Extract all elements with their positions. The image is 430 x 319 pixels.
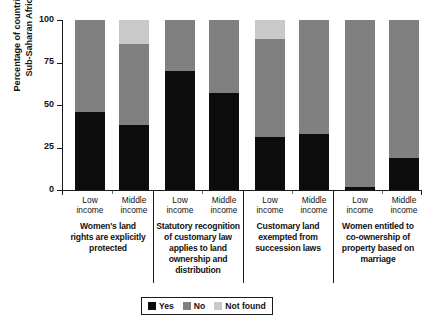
legend-swatch-no-icon (183, 302, 191, 310)
group-label-4: Women entitled to co-ownership of proper… (331, 221, 425, 265)
x-tick-group1-mid (112, 191, 113, 194)
group-label-line-3: succession laws (241, 243, 335, 254)
bar-segment-yes (255, 137, 285, 190)
sub-label-line-1: Middle (112, 195, 156, 205)
legend-label-no: No (194, 301, 205, 311)
group-label-line-3: protected (61, 243, 155, 254)
legend-label-yes: Yes (159, 301, 174, 311)
sub-label-line-1: Middle (292, 195, 336, 205)
group-label-3: Customary land exempted from succession … (241, 221, 335, 254)
group-label-line-2: co-ownership of (331, 232, 425, 243)
group-label-1: Women's land rights are explicitly prote… (61, 221, 155, 254)
bar-segment-yes (75, 112, 105, 190)
bar-segment-yes (209, 93, 239, 190)
bar-segment-not-found (119, 20, 149, 44)
y-tick-label-0: 0 (49, 184, 54, 194)
bar-segment-yes (299, 134, 329, 190)
sub-label-line-2: income (338, 205, 382, 215)
legend-item-yes[interactable]: Yes (148, 301, 179, 311)
plot-area: 0 25 50 75 100 (62, 20, 422, 190)
sub-label-line-2: income (202, 205, 246, 215)
y-tick-label-25: 25 (44, 141, 54, 151)
sub-label-line-2: income (248, 205, 292, 215)
bar-group2-low[interactable] (165, 20, 195, 190)
group-label-line-3: property based on (331, 243, 425, 254)
bar-group2-middle[interactable] (209, 20, 239, 190)
group-label-line-2: exempted from (241, 232, 335, 243)
bar-segment-no (299, 20, 329, 134)
bar-segment-yes (345, 187, 375, 190)
bar-group1-middle[interactable] (119, 20, 149, 190)
legend-label-not-found: Not found (225, 301, 266, 311)
group-label-line-4: ownership and (151, 254, 245, 265)
sub-label-line-2: income (382, 205, 426, 215)
y-axis-title: Percentage of countries in Sub-Saharan A… (7, 0, 41, 123)
legend-swatch-yes-icon (148, 302, 156, 310)
bar-group4-middle[interactable] (389, 20, 419, 190)
bar-group1-low[interactable] (75, 20, 105, 190)
bar-segment-no (119, 44, 149, 126)
y-axis-title-line-2: Sub-Saharan Africa (24, 0, 36, 77)
sub-label-group1-low: Low income (68, 195, 112, 216)
sub-label-line-1: Middle (202, 195, 246, 205)
category-labels: Low income Middle income Low income Midd… (62, 195, 422, 287)
sub-label-group3-low: Low income (248, 195, 292, 216)
sub-label-group4-middle: Middle income (382, 195, 426, 216)
group-label-line-2: rights are explicitly (61, 232, 155, 243)
bar-segment-no (165, 20, 195, 71)
sub-label-line-2: income (158, 205, 202, 215)
sub-label-line-1: Low (248, 195, 292, 205)
group-label-line-1: Customary land (241, 221, 335, 232)
x-tick-group3-mid (292, 191, 293, 194)
sub-label-line-1: Low (338, 195, 382, 205)
sub-label-line-1: Low (158, 195, 202, 205)
sub-label-line-2: income (292, 205, 336, 215)
group-label-2: Statutory recognition of customary law a… (151, 221, 245, 276)
bar-group3-low[interactable] (255, 20, 285, 190)
sub-label-group2-middle: Middle income (202, 195, 246, 216)
sub-label-line-2: income (68, 205, 112, 215)
bar-segment-yes (389, 158, 419, 190)
x-tick-group4-mid (382, 191, 383, 194)
bar-group4-low[interactable] (345, 20, 375, 190)
stacked-bar-chart: Percentage of countries in Sub-Saharan A… (0, 0, 430, 319)
bar-segment-no (209, 20, 239, 93)
bar-segment-yes (119, 125, 149, 190)
bar-segment-no (345, 20, 375, 187)
bar-segment-not-found (255, 20, 285, 39)
y-tick-label-50: 50 (44, 99, 54, 109)
group-label-line-5: distribution (151, 265, 245, 276)
sub-label-line-1: Middle (382, 195, 426, 205)
y-tick-label-75: 75 (44, 56, 54, 66)
group-label-line-3: applies to land (151, 243, 245, 254)
bar-segment-no (255, 39, 285, 138)
group-label-line-1: Women's land (61, 221, 155, 232)
y-axis-title-line-1: Percentage of countries in (12, 0, 24, 91)
chart-legend: Yes No Not found (141, 297, 273, 315)
bar-segment-no (389, 20, 419, 158)
sub-label-group1-middle: Middle income (112, 195, 156, 216)
bar-group3-middle[interactable] (299, 20, 329, 190)
bar-segment-yes (165, 71, 195, 190)
legend-item-not-found[interactable]: Not found (214, 301, 266, 311)
group-label-line-2: of customary law (151, 232, 245, 243)
y-tick-label-100: 100 (39, 14, 54, 24)
group-label-line-1: Women entitled to (331, 221, 425, 232)
sub-label-line-2: income (112, 205, 156, 215)
bars-layer (62, 20, 422, 190)
sub-label-group2-low: Low income (158, 195, 202, 216)
group-label-line-1: Statutory recognition (151, 221, 245, 232)
sub-label-group3-middle: Middle income (292, 195, 336, 216)
x-axis-line (62, 190, 422, 191)
legend-swatch-not-found-icon (214, 302, 222, 310)
sub-label-group4-low: Low income (338, 195, 382, 216)
sub-label-line-1: Low (68, 195, 112, 205)
x-tick-group2-mid (202, 191, 203, 194)
group-label-line-4: marriage (331, 254, 425, 265)
bar-segment-no (75, 20, 105, 112)
legend-item-no[interactable]: No (183, 301, 210, 311)
